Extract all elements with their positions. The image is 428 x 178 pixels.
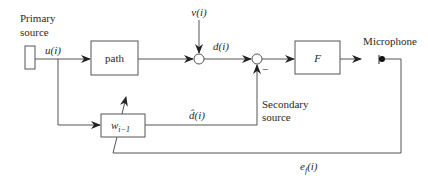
microphone-icon [379,56,385,62]
filter-block-label: F [313,52,321,64]
adaptation-arrow [122,97,126,114]
secondary-source-label-line1: Secondary [262,98,309,110]
summing-junction-1 [194,54,204,64]
disturbance-label: v(i) [191,6,207,19]
primary-source-label-line1: Primary [20,12,56,24]
primary-source-label-line2: source [20,26,49,38]
error-signal-label: ef(i) [300,160,318,175]
primary-source-block [25,46,35,69]
summing-junction-2 [252,54,262,64]
microphone-label: Microphone [363,35,417,47]
minus-sign: − [262,63,268,75]
estimate-signal-label: d̂(i) [189,109,205,122]
input-signal-label: u(i) [45,44,61,57]
path-block-label: path [105,52,124,64]
block-diagram: Primary source u(i) path v(i) d(i) − F M… [0,0,428,178]
wire-error-into-adaptive [113,137,117,153]
desired-signal-label: d(i) [213,40,229,53]
secondary-source-label-line2: source [262,111,291,123]
